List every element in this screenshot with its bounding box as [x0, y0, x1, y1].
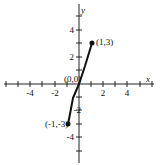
x-tick-label: -4 [26, 88, 34, 98]
y-tick-label: -4 [67, 132, 75, 142]
point-label-origin: (0,0) [64, 74, 81, 84]
x-axis-label: x [145, 74, 150, 84]
point-label-bottom: (-1,-3) [45, 119, 68, 129]
y-tick-label: 4 [70, 25, 75, 35]
endpoint-top [90, 41, 95, 46]
x-tick-label: 2 [101, 88, 106, 98]
x-tick-label: -2 [51, 88, 59, 98]
graph: -4 -2 2 4 4 2 -2 -4 x y (1,3) (0,0) (-1,… [0, 0, 162, 165]
y-axis-label: y [80, 5, 85, 15]
point-label-top: (1,3) [96, 37, 113, 47]
y-tick-label: -2 [74, 105, 82, 115]
y-tick-label: 2 [70, 52, 75, 62]
x-tick-label: 4 [125, 88, 130, 98]
